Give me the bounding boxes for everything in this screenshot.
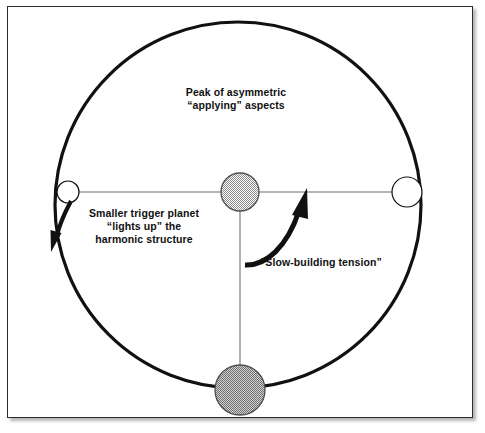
trigger-planet-label: Smaller trigger planet “lights up” the h… <box>64 207 224 246</box>
aspect-diagram-figure: Peak of asymmetric “applying” aspects Sm… <box>0 0 485 433</box>
peak-label: Peak of asymmetric “applying” aspects <box>141 86 331 112</box>
center-planet <box>221 173 259 211</box>
slow-building-tension-label: “Slow-building tension” <box>260 256 410 269</box>
trigger-planet-left <box>57 181 79 203</box>
right-planet <box>392 177 422 207</box>
bottom-planet <box>215 365 265 415</box>
